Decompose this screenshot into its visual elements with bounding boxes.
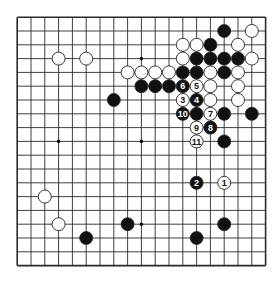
stones	[38, 25, 258, 245]
star-point-icon	[57, 140, 61, 144]
white-stone	[176, 52, 189, 65]
white-stone	[232, 94, 245, 107]
move-number-label: 6	[180, 81, 185, 91]
white-stone	[232, 80, 245, 93]
white-stone	[121, 66, 134, 79]
star-point-icon	[140, 140, 144, 144]
numbered-move-9: 9	[190, 121, 203, 134]
black-stone	[163, 80, 176, 93]
white-stone	[163, 66, 176, 79]
black-stone	[190, 52, 203, 65]
white-stone	[245, 25, 258, 38]
black-stone	[121, 218, 134, 231]
numbered-move-3: 3	[176, 94, 189, 107]
black-stone	[80, 232, 93, 245]
white-stone	[52, 218, 65, 231]
move-number-label: 3	[180, 95, 185, 105]
numbered-move-11: 11	[190, 135, 203, 148]
numbered-move-6: 6	[176, 80, 189, 93]
move-number-label: 9	[194, 123, 199, 133]
go-board: 1234567891011	[0, 0, 275, 283]
move-number-label: 8	[208, 123, 213, 133]
white-stone	[38, 190, 51, 203]
move-number-label: 10	[178, 109, 188, 119]
move-number-label: 1	[222, 178, 227, 188]
black-stone	[149, 80, 162, 93]
black-stone	[135, 80, 148, 93]
move-number-label: 11	[192, 137, 202, 147]
numbered-move-1: 1	[218, 176, 231, 189]
numbered-move-7: 7	[204, 107, 217, 120]
white-stone	[135, 66, 148, 79]
black-stone	[204, 38, 217, 51]
white-stone	[204, 94, 217, 107]
move-number-label: 2	[194, 178, 199, 188]
numbered-move-5: 5	[190, 80, 203, 93]
numbered-move-4: 4	[190, 94, 203, 107]
white-stone	[232, 38, 245, 51]
black-stone	[218, 52, 231, 65]
numbered-move-2: 2	[190, 176, 203, 189]
white-stone	[190, 38, 203, 51]
white-stone	[52, 52, 65, 65]
black-stone	[107, 94, 120, 107]
black-stone	[218, 107, 231, 120]
black-stone	[218, 66, 231, 79]
black-stone	[204, 52, 217, 65]
white-stone	[176, 38, 189, 51]
white-stone	[232, 66, 245, 79]
star-point-icon	[140, 222, 144, 226]
black-stone	[218, 218, 231, 231]
numbered-moves: 1234567891011	[176, 80, 230, 190]
white-stone	[80, 52, 93, 65]
white-stone	[245, 52, 258, 65]
black-stone	[190, 232, 203, 245]
black-stone	[190, 107, 203, 120]
white-stone	[149, 66, 162, 79]
numbered-move-8: 8	[204, 121, 217, 134]
move-number-label: 5	[194, 81, 199, 91]
black-stone	[232, 52, 245, 65]
white-stone	[204, 66, 217, 79]
black-stone	[245, 107, 258, 120]
star-point-icon	[140, 57, 144, 61]
white-stone	[204, 80, 217, 93]
move-number-label: 4	[194, 95, 199, 105]
black-stone	[218, 25, 231, 38]
black-stone	[218, 135, 231, 148]
go-board-diagram: 1234567891011	[0, 0, 275, 283]
numbered-move-10: 10	[176, 107, 189, 120]
black-stone	[190, 66, 203, 79]
black-stone	[176, 66, 189, 79]
move-number-label: 7	[208, 109, 213, 119]
